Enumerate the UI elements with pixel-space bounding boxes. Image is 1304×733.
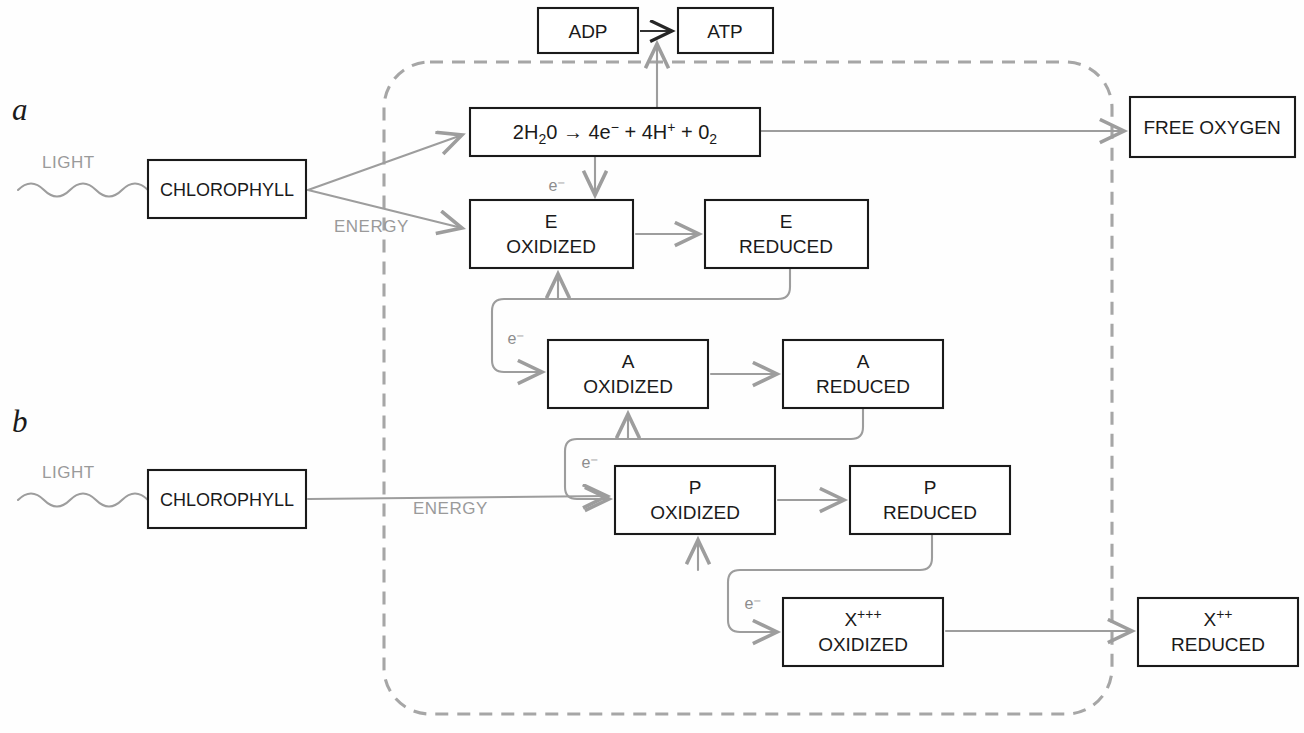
photosynthesis-diagram: a b LIGHT LIGHT ENERGY ENERGY e⁻ e⁻ e⁻ e… — [0, 0, 1304, 733]
box-chlorophyll-a[interactable]: CHLOROPHYLL — [148, 160, 306, 218]
box-e-oxidized-line1: E — [545, 211, 558, 232]
box-e-reduced-line1: E — [780, 211, 793, 232]
box-e-oxidized-line2: OXIDIZED — [506, 236, 596, 257]
box-atp[interactable]: ATP — [678, 8, 773, 53]
box-e-reduced[interactable]: E REDUCED — [705, 200, 868, 268]
box-atp-label: ATP — [707, 21, 743, 42]
light-label-b: LIGHT — [42, 463, 95, 482]
thylakoid-boundary — [384, 62, 1112, 714]
electron-label-4: e⁻ — [745, 595, 762, 612]
box-adp[interactable]: ADP — [538, 8, 638, 53]
box-e-reduced-line2: REDUCED — [739, 236, 833, 257]
box-chlorophyll-b[interactable]: CHLOROPHYLL — [148, 470, 306, 528]
box-a-oxidized-line2: OXIDIZED — [583, 376, 673, 397]
box-p-reduced-line2: REDUCED — [883, 502, 977, 523]
box-p-reduced-line1: P — [924, 477, 937, 498]
box-free-oxygen[interactable]: FREE OXYGEN — [1130, 97, 1295, 157]
box-x-oxidized-line2: OXIDIZED — [818, 634, 908, 655]
box-a-reduced-line1: A — [857, 351, 870, 372]
box-chlorophyll-b-label: CHLOROPHYLL — [160, 490, 294, 510]
box-a-reduced-line2: REDUCED — [816, 376, 910, 397]
diagram-canvas: a b LIGHT LIGHT ENERGY ENERGY e⁻ e⁻ e⁻ e… — [0, 0, 1304, 733]
box-p-oxidized-line2: OXIDIZED — [650, 502, 740, 523]
panel-label-a: a — [12, 92, 28, 127]
box-x-reduced[interactable]: X++ REDUCED — [1138, 598, 1298, 666]
box-a-reduced[interactable]: A REDUCED — [783, 340, 943, 408]
box-free-oxygen-label: FREE OXYGEN — [1143, 117, 1280, 138]
box-adp-label: ADP — [568, 21, 607, 42]
electron-label-3: e⁻ — [582, 454, 599, 471]
electron-label-2: e⁻ — [508, 330, 525, 347]
box-a-oxidized-line1: A — [622, 351, 635, 372]
box-p-oxidized-line1: P — [689, 477, 702, 498]
energy-label-b: ENERGY — [413, 499, 488, 518]
electron-label-1: e⁻ — [549, 177, 566, 194]
energy-label-a: ENERGY — [334, 217, 409, 236]
light-label-a: LIGHT — [42, 153, 95, 172]
panel-label-b: b — [12, 404, 28, 439]
box-p-reduced[interactable]: P REDUCED — [850, 466, 1010, 534]
box-chlorophyll-a-label: CHLOROPHYLL — [160, 180, 294, 200]
box-water-splitting[interactable]: 2H20 → 4e− + 4H+ + 02 — [470, 108, 760, 156]
box-p-oxidized[interactable]: P OXIDIZED — [615, 466, 775, 534]
box-e-oxidized[interactable]: E OXIDIZED — [470, 200, 633, 268]
box-x-reduced-line2: REDUCED — [1171, 634, 1265, 655]
box-x-oxidized[interactable]: X+++ OXIDIZED — [783, 598, 943, 666]
box-a-oxidized[interactable]: A OXIDIZED — [548, 340, 708, 408]
